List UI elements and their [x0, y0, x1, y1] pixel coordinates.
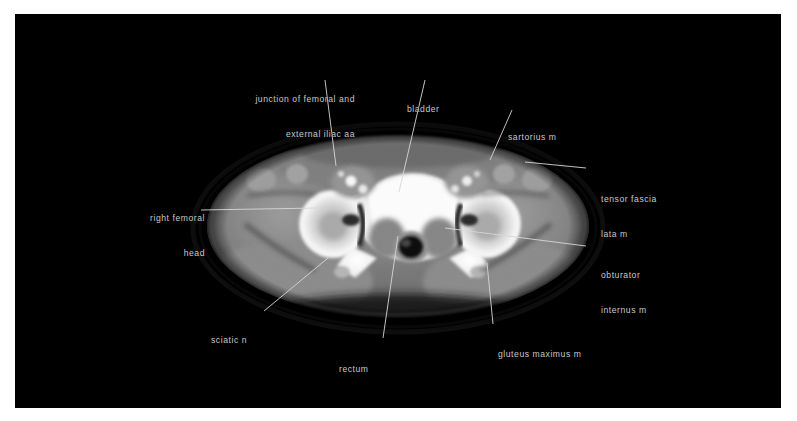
label-rectum: rectum: [339, 341, 389, 399]
label-femoral-junction: junction of femoral and external iliac a…: [220, 71, 355, 163]
ct-figure: junction of femoral and external iliac a…: [15, 14, 781, 408]
label-right-femoral-head-line2: head: [120, 248, 205, 260]
label-obturator-internus-line2: internus m: [601, 305, 681, 317]
label-tensor-fascia-lata-line2: lata m: [601, 229, 691, 241]
label-rectum-line1: rectum: [339, 364, 389, 376]
label-femoral-junction-line1: junction of femoral and: [220, 94, 355, 106]
label-gluteus-maximus: gluteus maximus m: [498, 326, 618, 384]
label-sartorius: sartorius m: [508, 109, 588, 167]
label-right-femoral-head: right femoral head: [120, 190, 205, 282]
label-bladder: bladder: [407, 81, 467, 139]
label-sciatic-nerve-line1: sciatic n: [211, 335, 275, 347]
label-femoral-junction-line2: external iliac aa: [220, 129, 355, 141]
label-bladder-line1: bladder: [407, 104, 467, 116]
label-gluteus-maximus-line1: gluteus maximus m: [498, 349, 618, 361]
label-sciatic-nerve: sciatic n: [211, 312, 275, 370]
label-sartorius-line1: sartorius m: [508, 132, 588, 144]
label-tensor-fascia-lata-line1: tensor fascia: [601, 194, 691, 206]
page: junction of femoral and external iliac a…: [0, 0, 797, 421]
label-obturator-internus-line1: obturator: [601, 270, 681, 282]
label-right-femoral-head-line1: right femoral: [120, 213, 205, 225]
